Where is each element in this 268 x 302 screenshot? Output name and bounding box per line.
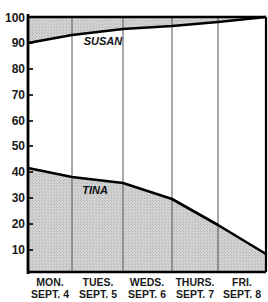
y-tick-label-100: 100 <box>5 11 25 25</box>
x-label-weds-date: SEPT. 6 <box>128 288 166 300</box>
x-label-fri-day: FRI. <box>232 276 252 288</box>
x-label-mon-date: SEPT. 4 <box>31 288 69 300</box>
y-tick-label-90: 90 <box>12 36 26 50</box>
x-label-weds-day: WEDS. <box>130 276 165 288</box>
y-tick-label-10: 10 <box>12 243 26 257</box>
y-tick-label-30: 30 <box>12 191 26 205</box>
y-tick-label-80: 80 <box>12 62 26 76</box>
x-label-mon-day: MON. <box>36 276 63 288</box>
x-label-tues-day: TUES. <box>83 276 114 288</box>
y-tick-label-70: 70 <box>12 88 26 102</box>
x-label-thurs-date: SEPT. 7 <box>176 288 214 300</box>
chart-container: 100 90 80 70 60 50 40 30 20 10 SUSAN TIN… <box>0 0 268 302</box>
series-label-tina: TINA <box>82 184 108 196</box>
y-tick-label-50: 50 <box>12 139 26 153</box>
y-tick-label-40: 40 <box>12 165 26 179</box>
area-chart: 100 90 80 70 60 50 40 30 20 10 SUSAN TIN… <box>0 0 268 302</box>
x-label-thurs-day: THURS. <box>175 276 214 288</box>
y-tick-label-20: 20 <box>12 217 26 231</box>
x-label-tues-date: SEPT. 5 <box>79 288 117 300</box>
y-tick-label-60: 60 <box>12 114 26 128</box>
series-label-susan: SUSAN <box>84 35 124 47</box>
x-label-fri-date: SEPT. 8 <box>223 288 261 300</box>
